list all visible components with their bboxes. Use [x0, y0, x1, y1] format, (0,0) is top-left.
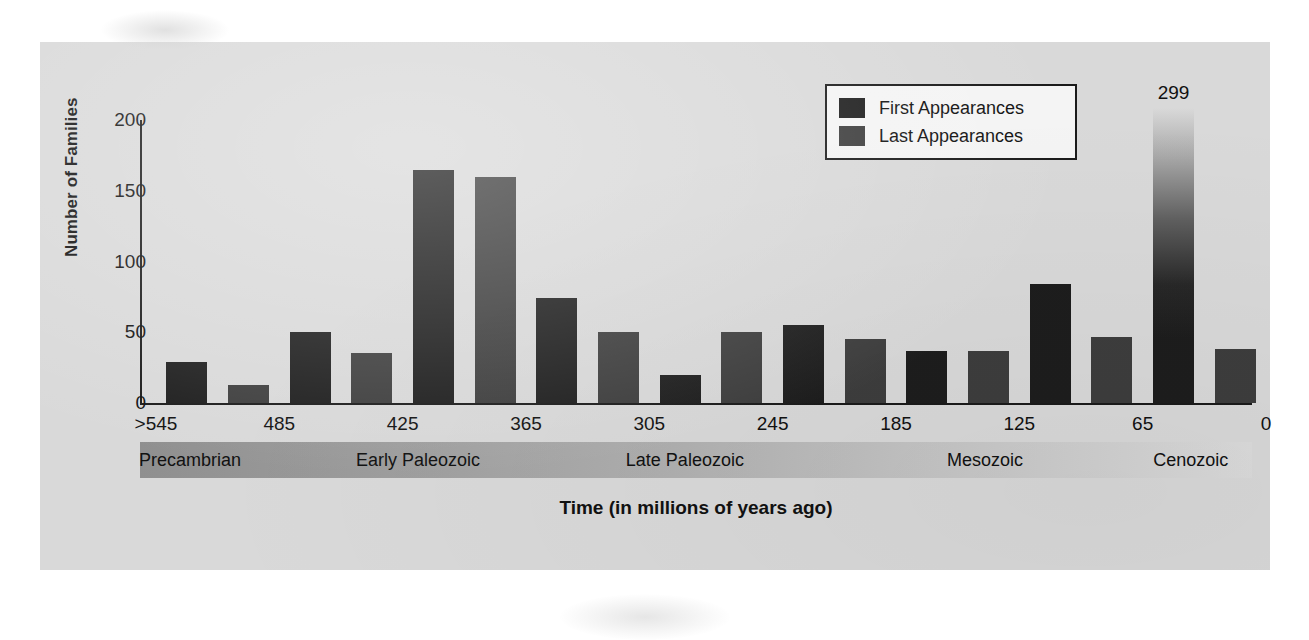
- x-axis-title: Time (in millions of years ago): [140, 497, 1252, 519]
- x-tick-label: 245: [757, 413, 789, 435]
- x-tick-label: 305: [633, 413, 665, 435]
- x-tick-label: 65: [1132, 413, 1153, 435]
- bar-4: [351, 353, 392, 403]
- era-label-mesozoic: Mesozoic: [947, 450, 1023, 471]
- bar-11: [783, 325, 824, 403]
- x-tick-label: >545: [135, 413, 178, 435]
- bar-9: [660, 375, 701, 403]
- bar-15: [1030, 284, 1071, 403]
- bar-3: [290, 332, 331, 403]
- scan-smudge-bottom: [560, 594, 730, 640]
- bar-7: [536, 298, 577, 403]
- y-tick-label: 200: [86, 109, 146, 131]
- legend-item-1: First Appearances: [839, 94, 1063, 122]
- x-tick-label: 125: [1003, 413, 1035, 435]
- legend-swatch-icon: [839, 126, 865, 146]
- y-tick-label: 0: [86, 392, 146, 414]
- bar-value-label: 299: [1158, 82, 1190, 104]
- x-tick-label: 425: [387, 413, 419, 435]
- figure-panel: Number of Families 299 050100150200 >545…: [40, 42, 1270, 570]
- era-label-late-paleozoic: Late Paleozoic: [626, 450, 744, 471]
- x-tick-label: 0: [1261, 413, 1272, 435]
- bar-5: [413, 170, 454, 403]
- bar-1: [166, 362, 207, 403]
- bar-6: [475, 177, 516, 403]
- y-tick-label: 50: [86, 321, 146, 343]
- bar-17: 299: [1153, 108, 1194, 403]
- legend-item-2: Last Appearances: [839, 122, 1063, 150]
- era-label-precambrian: Precambrian: [139, 450, 241, 471]
- plot-area: 299: [140, 120, 1252, 405]
- x-tick-label: 365: [510, 413, 542, 435]
- bar-13: [906, 351, 947, 403]
- scan-smudge-top: [100, 10, 230, 50]
- bar-16: [1091, 337, 1132, 404]
- x-tick-label: 185: [880, 413, 912, 435]
- bar-8: [598, 332, 639, 403]
- era-label-early-paleozoic: Early Paleozoic: [356, 450, 480, 471]
- bar-18: [1215, 349, 1256, 403]
- chart-legend: First AppearancesLast Appearances: [825, 84, 1077, 160]
- bar-12: [845, 339, 886, 403]
- bar-14: [968, 351, 1009, 403]
- y-tick-label: 100: [86, 251, 146, 273]
- geologic-era-band: PrecambrianEarly PaleozoicLate Paleozoic…: [140, 442, 1252, 478]
- y-tick-label: 150: [86, 180, 146, 202]
- bar-10: [721, 332, 762, 403]
- legend-label: First Appearances: [879, 98, 1024, 119]
- era-label-cenozoic: Cenozoic: [1153, 450, 1228, 471]
- legend-label: Last Appearances: [879, 126, 1023, 147]
- x-axis-ticks: >545485425365305245185125650: [140, 405, 1252, 439]
- legend-swatch-icon: [839, 98, 865, 118]
- bar-2: [228, 385, 269, 403]
- x-tick-label: 485: [263, 413, 295, 435]
- bar-group: 299: [142, 120, 1252, 403]
- y-axis-title: Number of Families: [62, 97, 82, 257]
